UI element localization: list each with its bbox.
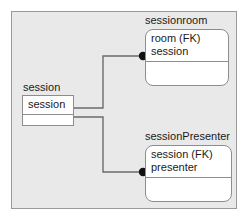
attribute-row: session: [28, 98, 68, 111]
entity-box-session[interactable]: session: [22, 95, 74, 126]
attribute-row: session (FK): [151, 148, 226, 161]
attribute-section: session: [23, 96, 73, 114]
empty-attribute-section: [23, 115, 73, 125]
attribute-row: session: [151, 45, 223, 58]
entity-title-sessionroom: sessionroom: [145, 14, 207, 27]
entity-title-sessionpresenter: sessionPresenter: [145, 130, 230, 143]
entity-box-sessionroom[interactable]: room (FK) session: [145, 29, 229, 86]
attribute-row: presenter: [151, 161, 226, 174]
attribute-section: room (FK) session: [146, 30, 228, 61]
entity-title-session: session: [23, 81, 60, 94]
entity-body: room (FK) session: [146, 30, 228, 85]
empty-attribute-section: [146, 62, 228, 85]
attribute-row: room (FK): [151, 32, 223, 45]
entity-body: session: [23, 96, 73, 125]
empty-attribute-section: [146, 178, 231, 201]
diagram-canvas: sessionroom room (FK) session session se…: [0, 0, 249, 220]
entity-body: session (FK) presenter: [146, 146, 231, 201]
attribute-section: session (FK) presenter: [146, 146, 231, 177]
entity-box-sessionpresenter[interactable]: session (FK) presenter: [145, 145, 232, 202]
